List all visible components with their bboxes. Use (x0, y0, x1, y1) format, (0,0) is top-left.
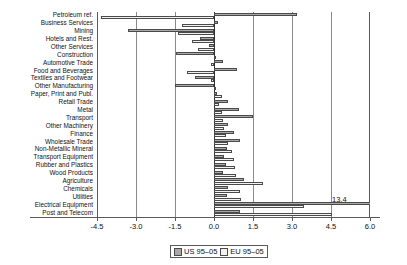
legend-swatch-eu-icon (220, 248, 228, 256)
bar-row (97, 178, 370, 186)
bar-us (214, 21, 218, 24)
bar-eu (214, 150, 232, 153)
category-label: Other Manufacturing (35, 82, 93, 89)
x-tick-label: -3.0 (130, 222, 143, 231)
bar-eu (178, 32, 214, 35)
category-label: Wood Products (49, 169, 93, 176)
legend-label-us: US 95–05 (184, 247, 217, 256)
x-tick (331, 217, 332, 221)
x-tick-label: 1.5 (248, 222, 258, 231)
x-tick (175, 217, 176, 221)
bar-row (97, 130, 370, 138)
category-label: Non-Metallic Mineral (35, 145, 93, 152)
bar-us (176, 52, 214, 55)
category-label: Agriculture (62, 177, 93, 184)
chart-legend: US 95–05 EU 95–05 (170, 245, 268, 258)
bar-row (97, 99, 370, 107)
bar-row (97, 83, 370, 91)
bar-eu (214, 213, 332, 216)
category-label: Construction (57, 51, 93, 58)
x-tick (214, 217, 215, 221)
category-label: Finance (70, 130, 93, 137)
x-tick-label: -4.5 (91, 222, 104, 231)
x-axis-line (30, 217, 380, 218)
bar-row (97, 146, 370, 154)
x-tick (136, 217, 137, 221)
bar-eu (214, 103, 219, 106)
category-label: Wholesale Trade (45, 138, 93, 145)
bar-chart: Petroleum ref.Business ServicesMiningHot… (0, 0, 407, 265)
bar-row (97, 209, 370, 217)
bar-row (97, 67, 370, 75)
plot-area (97, 12, 370, 217)
bar-row (97, 91, 370, 99)
bar-eu (214, 111, 222, 114)
bar-us (214, 13, 297, 16)
bar-eu (187, 71, 214, 74)
category-label: Textiles and Footwear (31, 74, 93, 81)
category-label: Retail Trade (59, 98, 93, 105)
bar-row (97, 122, 370, 130)
bar-eu (182, 24, 215, 27)
category-label: Chemicals (63, 185, 93, 192)
bar-row (97, 115, 370, 123)
bar-row (97, 170, 370, 178)
bar-row (97, 201, 370, 209)
bar-row (97, 75, 370, 83)
legend-item-eu: EU 95–05 (220, 247, 263, 256)
bar-eu (214, 198, 241, 201)
legend-swatch-us-icon (174, 248, 182, 256)
category-label: Hotels and Rest. (46, 35, 93, 42)
x-tick (370, 217, 371, 221)
legend-item-us: US 95–05 (174, 247, 217, 256)
category-label: Other Machinery (46, 122, 93, 129)
category-label: Electrical Equipment (35, 201, 93, 208)
bar-row (97, 107, 370, 115)
x-tick-label: 4.5 (326, 222, 336, 231)
legend-label-eu: EU 95–05 (230, 247, 263, 256)
category-label: Petroleum ref. (53, 11, 93, 18)
bar-row (97, 20, 370, 28)
bar-row (97, 138, 370, 146)
bar-row (97, 51, 370, 59)
category-label: Food and Beverages (34, 67, 93, 74)
bar-eu (214, 134, 226, 137)
bar-eu (214, 95, 222, 98)
bar-row (97, 193, 370, 201)
category-label: Automotive Trade (43, 59, 93, 66)
bar-eu (214, 166, 235, 169)
bar-row (97, 154, 370, 162)
bar-eu (211, 63, 214, 66)
bar-us (214, 68, 237, 71)
category-label: Utilities (72, 193, 93, 200)
bar-eu (214, 182, 263, 185)
bar-row (97, 28, 370, 36)
bar-eu (214, 142, 228, 145)
bar-eu (214, 119, 223, 122)
bar-eu (198, 48, 214, 51)
bar-row (97, 59, 370, 67)
bar-eu (211, 79, 214, 82)
bar-eu (214, 174, 236, 177)
x-tick (97, 217, 98, 221)
bar-row (97, 36, 370, 44)
x-tick-label: 6.0 (365, 222, 375, 231)
bar-eu (214, 205, 304, 208)
bar-eu (214, 190, 240, 193)
x-tick (292, 217, 293, 221)
category-label: Transport (66, 114, 93, 121)
category-axis-labels: Petroleum ref.Business ServicesMiningHot… (0, 12, 95, 217)
x-tick-label: 0.0 (209, 222, 219, 231)
bar-us (175, 84, 214, 87)
x-tick (253, 217, 254, 221)
category-label: Post and Telecom (42, 209, 93, 216)
category-label: Metal (77, 106, 93, 113)
x-tick-label: -1.5 (169, 222, 182, 231)
bar-row (97, 185, 370, 193)
bar-eu (101, 16, 214, 19)
category-label: Other Services (51, 43, 93, 50)
category-label: Business Services (41, 19, 93, 26)
bar-eu (214, 87, 216, 90)
bar-eu (214, 56, 216, 59)
bar-eu (192, 40, 214, 43)
